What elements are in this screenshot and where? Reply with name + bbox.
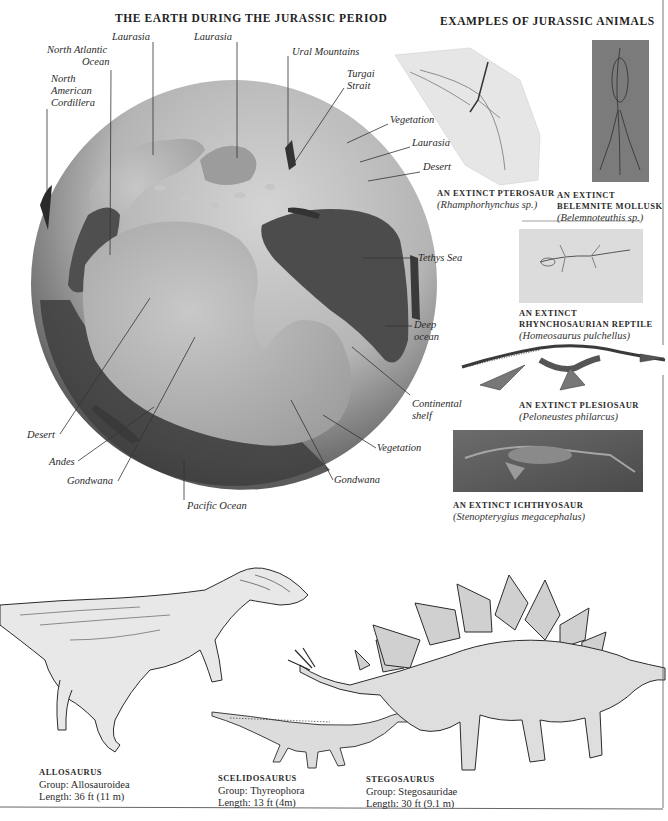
caption-stegosaurus: STEGOSAURUS Group: Stegosauridae Length:… (366, 773, 457, 811)
caption-ichthyosaur: AN EXTINCT ICHTHYOSAUR (Stenopterygius m… (453, 500, 585, 523)
label-vegetation-1: Vegetation (390, 114, 434, 126)
label-gondwana-1: Gondwana (67, 475, 113, 487)
label-laurasia-3: Laurasia (412, 137, 450, 149)
label-laurasia-2: Laurasia (194, 31, 232, 43)
label-gondwana-2: Gondwana (334, 474, 380, 486)
label-tethys-sea: Tethys Sea (418, 252, 462, 264)
label-pacific-ocean: Pacific Ocean (187, 500, 247, 512)
label-vegetation-2: Vegetation (377, 442, 421, 454)
label-north-american-cordillera: North American Cordillera (51, 73, 95, 109)
caption-belemnite: AN EXTINCT BELEMNITE MOLLUSK (Belemnoteu… (557, 190, 663, 224)
caption-plesiosaur: AN EXTINCT PLESIOSAUR (Peloneustes phila… (519, 400, 639, 423)
label-deep-ocean: Deep ocean (414, 319, 439, 343)
label-north-atlantic: North Atlantic Ocean (47, 44, 109, 68)
animals-section-title: EXAMPLES OF JURASSIC ANIMALS (440, 15, 655, 27)
caption-allosaurus: ALLOSAURUS Group: Allosauroidea Length: … (39, 766, 130, 804)
label-desert-2: Desert (27, 429, 55, 441)
scelidosaurus-illustration (212, 712, 410, 768)
caption-rhynchosaur: AN EXTINCT RHYNCHOSAURIAN REPTILE (Homeo… (519, 308, 653, 342)
plesiosaur-fossil-image (462, 346, 665, 390)
label-turgai-strait: Turgai Strait (347, 68, 375, 92)
label-continental-shelf: Continental shelf (412, 398, 462, 422)
bottom-rule (0, 807, 663, 809)
ichthyosaur-fossil-image (453, 430, 643, 492)
caption-pterosaur: AN EXTINCT PTEROSAUR (Rhamphorhynchus sp… (437, 188, 555, 211)
caption-scelidosaurus: SCELIDOSAURUS Group: Thyreophora Length:… (218, 772, 304, 810)
label-laurasia-1: Laurasia (112, 31, 150, 43)
jurassic-globe (31, 80, 437, 490)
belemnite-fossil-image (592, 40, 649, 182)
rhynchosaur-fossil-image (519, 229, 643, 303)
globe-section-title: THE EARTH DURING THE JURASSIC PERIOD (115, 12, 387, 24)
label-ural-mountains: Ural Mountains (292, 46, 359, 58)
label-andes: Andes (49, 456, 75, 468)
label-desert-1: Desert (423, 161, 451, 173)
